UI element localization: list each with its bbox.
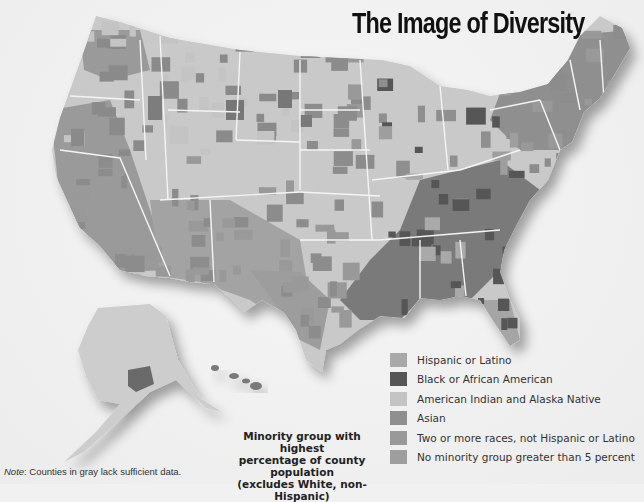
county-patch — [595, 124, 608, 135]
county-patch — [216, 130, 232, 142]
county-patch — [453, 199, 470, 211]
county-patch — [216, 233, 223, 242]
county-patch — [607, 81, 617, 88]
county-patch — [331, 306, 344, 312]
legend-label: Hispanic or Latino — [417, 354, 512, 366]
county-patch — [388, 232, 395, 238]
county-patch — [602, 237, 611, 252]
county-patch — [556, 153, 572, 168]
county-patch — [577, 324, 587, 334]
county-patch — [222, 218, 235, 227]
county-patch — [259, 94, 276, 102]
county-patch — [280, 240, 290, 258]
county-patch — [130, 25, 136, 37]
county-patch — [257, 114, 265, 122]
county-patch — [419, 247, 435, 261]
county-patch — [219, 270, 226, 282]
county-patch — [189, 286, 196, 293]
county-patch — [72, 192, 90, 200]
map-title: The Image of Diversity — [352, 6, 585, 40]
county-patch — [524, 335, 533, 345]
county-patch — [578, 194, 597, 209]
county-patch — [545, 158, 551, 166]
county-patch — [71, 129, 84, 147]
legend-caption-line: percentage of county population — [224, 454, 380, 478]
note-text: : Counties in gray lack sufficient data. — [24, 466, 181, 477]
county-patch — [333, 167, 348, 174]
county-patch — [379, 79, 388, 87]
county-patch — [119, 150, 131, 156]
county-patch — [148, 96, 162, 120]
county-patch — [499, 85, 512, 95]
county-patch — [404, 47, 412, 61]
county-patch — [559, 235, 575, 247]
county-patch — [593, 206, 599, 212]
county-patch — [155, 285, 171, 298]
county-patch — [572, 194, 587, 210]
county-patch — [193, 267, 209, 274]
county-patch — [356, 155, 375, 169]
legend-caption: Minority group with highest percentage o… — [224, 430, 380, 502]
county-patch — [607, 335, 614, 350]
county-patch — [192, 235, 206, 247]
county-patch — [335, 200, 344, 211]
county-patch — [199, 97, 208, 112]
county-patch — [94, 257, 108, 274]
county-patch — [234, 217, 249, 227]
county-patch — [278, 90, 292, 108]
county-patch — [135, 294, 152, 305]
county-patch — [567, 241, 579, 252]
county-patch — [204, 218, 210, 227]
county-patch — [307, 141, 318, 150]
county-patch — [95, 282, 114, 290]
county-patch — [220, 55, 228, 63]
county-patch — [602, 317, 619, 331]
county-patch — [560, 93, 575, 103]
county-patch — [116, 269, 128, 285]
map-note: Note: Counties in gray lack sufficient d… — [4, 466, 181, 477]
county-patch — [98, 107, 116, 116]
county-patch — [568, 251, 586, 266]
county-patch — [415, 147, 423, 153]
county-patch — [553, 259, 570, 274]
county-patch — [501, 318, 507, 330]
county-patch — [508, 63, 526, 79]
county-patch — [590, 277, 597, 286]
county-patch — [348, 84, 362, 99]
county-patch — [339, 310, 351, 328]
legend-swatch-black — [390, 372, 407, 386]
county-patch — [555, 171, 569, 182]
county-patch — [507, 318, 517, 329]
county-patch — [431, 180, 439, 188]
county-patch — [539, 311, 547, 320]
county-patch — [267, 205, 283, 222]
county-patch — [613, 25, 632, 39]
county-patch — [585, 99, 593, 105]
county-patch — [441, 251, 452, 263]
county-patch — [481, 131, 491, 147]
legend-swatch-asian — [390, 411, 407, 425]
legend-label: No minority group greater than 5 percent — [417, 451, 635, 463]
county-patch — [498, 299, 509, 311]
county-patch — [185, 312, 199, 320]
county-patch — [402, 299, 408, 315]
county-patch — [315, 225, 334, 232]
county-patch — [608, 138, 627, 150]
county-patch — [236, 39, 254, 51]
county-patch — [344, 45, 358, 56]
county-patch — [326, 50, 332, 63]
county-patch — [589, 134, 604, 151]
county-patch — [511, 62, 523, 73]
county-patch — [478, 298, 484, 304]
hawaii — [211, 365, 262, 390]
county-patch — [379, 126, 392, 139]
legend-swatch-hispanic — [390, 353, 407, 367]
county-patch — [279, 260, 292, 271]
county-patch — [334, 151, 353, 166]
county-patch — [172, 189, 178, 207]
county-patch — [62, 85, 70, 95]
county-patch — [301, 315, 310, 327]
county-patch — [185, 335, 204, 345]
county-patch — [558, 169, 565, 180]
county-patch — [100, 72, 114, 82]
